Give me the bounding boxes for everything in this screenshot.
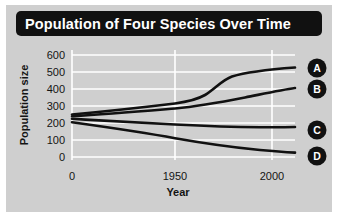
x-tick-0: 0	[69, 170, 75, 182]
x-axis-title: Year	[166, 186, 190, 198]
plot-area: 600 500 400 300 200 100 0 0 1950 2000 Po…	[0, 0, 342, 220]
series-marker-D[interactable]: D	[308, 147, 327, 166]
marker-label-D: D	[313, 150, 321, 162]
chart-svg: 600 500 400 300 200 100 0 0 1950 2000 Po…	[0, 0, 342, 220]
marker-label-A: A	[313, 62, 321, 74]
series-end-markers: A B C D	[308, 59, 327, 166]
series-marker-A[interactable]: A	[308, 59, 327, 78]
y-tick-600: 600	[47, 49, 65, 61]
y-tick-0: 0	[59, 151, 65, 163]
marker-label-B: B	[313, 83, 321, 95]
y-tick-labels: 600 500 400 300 200 100 0	[47, 49, 65, 163]
y-tick-200: 200	[47, 117, 65, 129]
x-tick-labels: 0 1950 2000	[69, 170, 284, 182]
y-tick-300: 300	[47, 100, 65, 112]
y-axis-title: Population size	[18, 65, 30, 146]
y-tick-400: 400	[47, 83, 65, 95]
series-marker-B[interactable]: B	[308, 80, 327, 99]
x-tick-1950: 1950	[163, 170, 187, 182]
series-marker-C[interactable]: C	[308, 121, 327, 140]
y-tick-500: 500	[47, 66, 65, 78]
chart-figure: Population of Four Species Over Time	[0, 0, 342, 220]
y-tick-100: 100	[47, 134, 65, 146]
x-tick-2000: 2000	[260, 170, 284, 182]
marker-label-C: C	[313, 124, 321, 136]
